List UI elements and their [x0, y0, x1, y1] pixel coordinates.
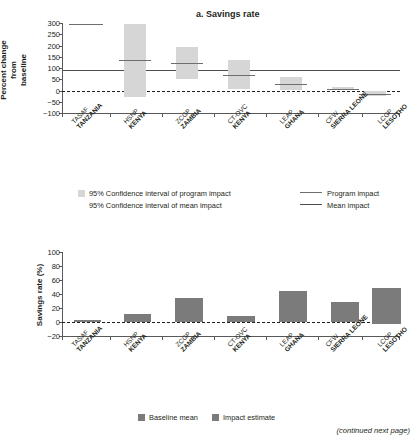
panel-b-savings-rate-levels: Savings rate (%) 100 80 60 40: [0, 230, 418, 410]
panel-a-ytick-label-150: 150: [47, 53, 60, 60]
panel-a-legend-label-ci-mean: 95% Confidence interval of mean impact: [89, 201, 222, 210]
panel-b-legend-label-impact-estimate: Impact estimate: [223, 413, 275, 422]
panel-b-ytick-label-20: 20: [52, 305, 60, 312]
panel-b-bar-hsnp-kenya: [124, 314, 151, 322]
panel-b-xtick-4: [266, 336, 267, 340]
panel-a-zero-line: [62, 91, 400, 92]
panel-b-xtick-5: [318, 336, 319, 340]
panel-b-bar-ctovc-kenya: [227, 316, 255, 322]
panel-a-legend-label-program-impact: Program impact: [327, 189, 379, 198]
panel-b-xtick-1: [110, 336, 111, 340]
continued-next-page-note: (continued next page): [337, 426, 410, 435]
panel-a-savings-rate: a. Savings rate Percent change from base…: [0, 0, 418, 230]
panel-a-ytick-label-250: 250: [47, 31, 60, 38]
panel-a-title: a. Savings rate: [196, 9, 260, 19]
panel-a-program-impact-tasaf-tanzania: [69, 24, 103, 25]
impact-estimate-swatch-icon: [212, 414, 219, 421]
panel-a-program-impact-hsnp-kenya: [119, 60, 151, 61]
panel-a-xtick-2: [162, 113, 163, 117]
panel-a-legend-entry-ci-program: 95% Confidence interval of program impac…: [78, 188, 288, 200]
panel-a-y-axis: [62, 23, 63, 113]
panel-a-program-impact-leap-ghana: [275, 84, 307, 85]
panel-b-ytick-label-100: 100: [47, 249, 60, 256]
panel-b-y-axis-label: Savings rate (%): [35, 257, 45, 333]
panel-a-xtick-4: [266, 113, 267, 117]
panel-b-legend-label-baseline-mean: Baseline mean: [149, 413, 198, 422]
panel-b-legend: Baseline mean Impact estimate: [138, 413, 287, 423]
panel-b-xtick-0: [62, 336, 63, 340]
panel-b-bar-tasaf-tanzania: [74, 320, 101, 322]
panel-a-ytick-label-neg50: −50: [47, 98, 60, 105]
panel-a-program-impact-zcgp-zambia: [171, 63, 203, 64]
panel-a-legend-entry-ci-mean: 95% Confidence interval of mean impact: [78, 200, 288, 212]
panel-a-xtick-1: [110, 113, 111, 117]
panel-a-xtick-0: [62, 113, 63, 117]
panel-a-ytick-label-0: 0: [56, 87, 60, 94]
panel-b-legend-entry-impact-estimate: Impact estimate: [212, 413, 275, 422]
panel-b-ytick-label-40: 40: [52, 291, 60, 298]
panel-a-legend-label-ci-program: 95% Confidence interval of program impac…: [89, 189, 231, 198]
panel-a-ytick-label-200: 200: [47, 42, 60, 49]
panel-a-ytick-label-100: 100: [47, 65, 60, 72]
panel-a-legend-entry-mean-impact: Mean impact: [300, 200, 369, 212]
panel-b-ytick-label-60: 60: [52, 277, 60, 284]
ci-mean-swatch-icon: [78, 202, 85, 209]
panel-b-bar-zcgp-zambia: [175, 298, 203, 323]
figure-savings-rate: a. Savings rate Percent change from base…: [0, 0, 418, 441]
mean-impact-line-icon: [300, 204, 322, 205]
panel-a-xtick-5: [318, 113, 319, 117]
panel-b-xtick-3: [214, 336, 215, 340]
panel-b-legend-entry-baseline-mean: Baseline mean: [138, 413, 200, 422]
panel-a-ytick-label-50: 50: [52, 76, 60, 83]
panel-a-legend-label-mean-impact: Mean impact: [327, 201, 369, 210]
program-impact-line-icon: [300, 192, 322, 193]
panel-a-program-impact-ctovc-kenya: [223, 75, 255, 76]
panel-b-ytick-label-neg20: −20: [47, 333, 60, 340]
baseline-mean-swatch-icon: [138, 414, 145, 421]
panel-b-bar-leap-ghana: [279, 291, 307, 323]
panel-a-xtick-3: [214, 113, 215, 117]
panel-b-ytick-label-0: 0: [56, 319, 60, 326]
panel-a-legend-entry-program-impact: Program impact: [300, 188, 379, 200]
panel-b-xtick-6: [362, 336, 363, 340]
panel-a-y-axis-label: Percent change from baseline: [0, 32, 29, 108]
panel-b-y-axis: [62, 252, 63, 336]
panel-a-ytick-label-300: 300: [47, 20, 60, 27]
panel-a-ytick-label-neg100: −100: [43, 110, 60, 117]
ci-program-swatch-icon: [78, 190, 85, 197]
panel-b-xtick-2: [162, 336, 163, 340]
panel-b-ytick-label-80: 80: [52, 263, 60, 270]
panel-a-xtick-6: [362, 113, 363, 117]
panel-b-bar-lcgp-lesotho: [372, 288, 401, 322]
